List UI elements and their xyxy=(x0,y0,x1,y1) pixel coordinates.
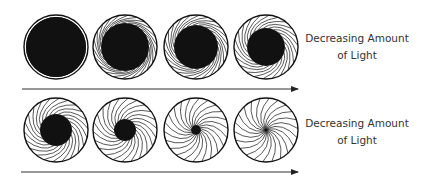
row1-label: Decreasing Amount of Light xyxy=(297,30,417,64)
iris-aperture xyxy=(93,98,157,162)
row2-label-line2: of Light xyxy=(297,132,417,149)
iris-aperture xyxy=(164,98,228,162)
iris-aperture xyxy=(234,98,298,162)
iris-aperture xyxy=(93,15,157,79)
aperture-row-2 xyxy=(21,98,298,172)
aperture-row-1 xyxy=(22,15,298,89)
iris-aperture-diagram xyxy=(0,0,421,184)
row2-label: Decreasing Amount of Light xyxy=(297,115,417,149)
row2-label-line1: Decreasing Amount xyxy=(297,115,417,132)
row1-label-line2: of Light xyxy=(297,47,417,64)
iris-aperture xyxy=(234,15,298,79)
iris-aperture xyxy=(24,98,88,162)
row1-label-line1: Decreasing Amount xyxy=(297,30,417,47)
iris-aperture xyxy=(164,15,228,79)
iris-aperture xyxy=(24,15,88,79)
